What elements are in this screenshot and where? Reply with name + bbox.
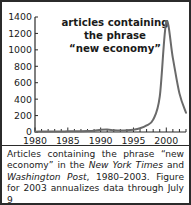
line-chart: articles containingthe phrase“new econom…: [2, 2, 189, 145]
chart-title-line-1: articles containing: [61, 17, 168, 28]
caption-publication-2: Washington Post: [7, 172, 86, 182]
y-tick-label: 400: [14, 94, 32, 105]
figure-caption: Articles containing the phrase “new econ…: [2, 145, 189, 203]
caption-part-2: and: [163, 160, 184, 170]
x-tick-label: 2000: [154, 135, 178, 145]
y-tick-label: 600: [14, 77, 32, 88]
figure-panel: articles containingthe phrase“new econom…: [0, 0, 191, 205]
chart-area: articles containingthe phrase“new econom…: [2, 2, 189, 145]
y-tick-label: 1200: [8, 28, 32, 39]
caption-text: Articles containing the phrase “new econ…: [7, 149, 184, 205]
x-tick-label: 1990: [89, 135, 113, 145]
y-tick-label: 200: [14, 110, 32, 121]
x-tick-label: 1980: [23, 135, 47, 145]
y-tick-label: 800: [14, 61, 32, 72]
chart-title-line-2: the phrase: [84, 30, 146, 41]
caption-publication-1: New York Times: [89, 160, 163, 170]
chart-title-line-3: “new economy”: [69, 43, 161, 54]
x-tick-label: 1985: [56, 135, 80, 145]
x-tick-label: 1995: [122, 135, 146, 145]
y-tick-label: 1000: [8, 44, 32, 55]
y-tick-label: 1400: [8, 11, 32, 22]
